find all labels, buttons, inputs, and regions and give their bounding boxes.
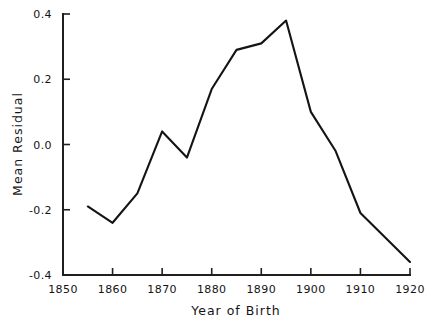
x-tick-label: 1850 <box>48 283 78 296</box>
y-axis-title: Mean Residual <box>10 92 25 196</box>
x-axis-tick-labels: 18501860187018801890190019101920 <box>48 283 425 296</box>
y-axis-tick-labels: -0.4-0.20.00.20.4 <box>29 8 52 282</box>
x-axis-title: Year of Birth <box>190 303 280 318</box>
x-tick-label: 1880 <box>197 283 227 296</box>
y-tick-label: 0.4 <box>33 8 52 21</box>
y-tick-label: 0.2 <box>33 73 52 86</box>
y-tick-label: -0.2 <box>29 204 52 217</box>
y-tick-label: 0.0 <box>33 139 52 152</box>
x-axis-ticks <box>113 268 410 275</box>
chart-container: -0.4-0.20.00.20.4 1850186018701880189019… <box>0 0 434 326</box>
x-tick-label: 1860 <box>98 283 128 296</box>
y-axis-ticks <box>63 14 70 275</box>
y-tick-label: -0.4 <box>29 269 52 282</box>
data-line-mean-residual <box>88 21 410 262</box>
x-tick-label: 1910 <box>346 283 376 296</box>
data-series-group <box>88 21 410 262</box>
line-chart: -0.4-0.20.00.20.4 1850186018701880189019… <box>0 0 434 326</box>
axis-lines <box>63 14 410 275</box>
x-tick-label: 1920 <box>395 283 425 296</box>
x-tick-label: 1890 <box>246 283 276 296</box>
x-tick-label: 1870 <box>147 283 177 296</box>
x-tick-label: 1900 <box>296 283 326 296</box>
